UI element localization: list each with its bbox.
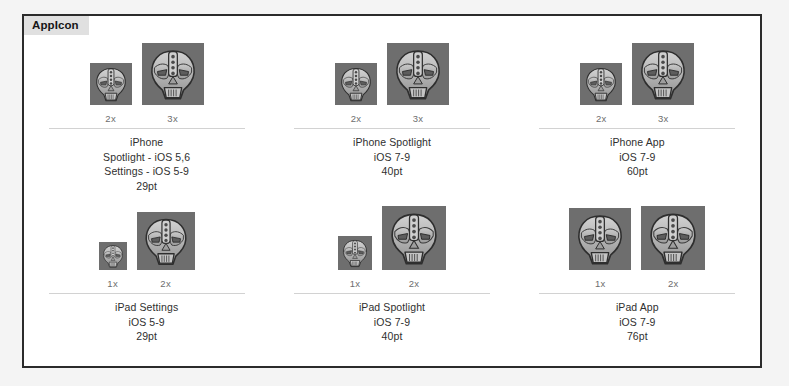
- group-os-line: iOS 7-9: [610, 150, 665, 165]
- icon-row: 1x: [99, 207, 195, 289]
- group-separator: [294, 293, 490, 294]
- icon-scale-label: 2x: [351, 113, 362, 124]
- group-separator: [539, 293, 735, 294]
- icon-group-ipad-app: 1x: [515, 203, 760, 368]
- app-icon-mask-artwork[interactable]: [387, 43, 449, 105]
- icon-scale-label: 2x: [105, 113, 116, 124]
- icon-scale-label: 3x: [658, 113, 669, 124]
- panel-tab-label: AppIcon: [24, 16, 89, 35]
- app-icon-mask-artwork[interactable]: [338, 236, 372, 270]
- icon-slot-3x[interactable]: 3x: [387, 43, 449, 124]
- group-title: iPhone App: [610, 135, 665, 150]
- group-os-line: iOS 7-9: [353, 150, 431, 165]
- icon-slot-1x[interactable]: 1x: [569, 208, 631, 289]
- group-title: iPhone: [103, 135, 190, 150]
- icon-slot-1x[interactable]: 1x: [338, 236, 372, 289]
- group-size-label: 40pt: [353, 164, 431, 179]
- icon-slot-2x[interactable]: 2x: [641, 206, 705, 289]
- icon-scale-label: 3x: [167, 113, 178, 124]
- group-separator: [294, 128, 490, 129]
- icon-row: 1x: [569, 207, 705, 289]
- icon-group-ipad-settings: 1x: [24, 203, 269, 368]
- icon-scale-label: 1x: [595, 278, 606, 289]
- group-os-line: iOS 7-9: [616, 315, 659, 330]
- icon-scale-label: 2x: [160, 278, 171, 289]
- group-caption: iPad SettingsiOS 5-929pt: [115, 300, 178, 344]
- icon-group-iphone-spotlight-settings: 2x: [24, 38, 269, 203]
- group-caption: iPhoneSpotlight - iOS 5,6Settings - iOS …: [103, 135, 190, 193]
- icon-slot-2x[interactable]: 2x: [137, 212, 195, 289]
- icon-group-iphone-app: 2x: [515, 38, 760, 203]
- group-separator: [539, 128, 735, 129]
- group-os-line: iOS 5-9: [115, 315, 178, 330]
- app-icon-mask-artwork[interactable]: [335, 63, 377, 105]
- group-size-label: 60pt: [610, 164, 665, 179]
- icon-scale-label: 1x: [350, 278, 361, 289]
- group-caption: iPhone AppiOS 7-960pt: [610, 135, 665, 179]
- group-size-label: 29pt: [115, 329, 178, 344]
- icon-scale-label: 2x: [409, 278, 420, 289]
- app-icon-mask-artwork[interactable]: [382, 206, 446, 270]
- icon-slot-2x[interactable]: 2x: [580, 63, 622, 124]
- group-size-label: 40pt: [359, 329, 425, 344]
- group-caption: iPhone SpotlightiOS 7-940pt: [353, 135, 431, 179]
- app-icon-set-page: AppIcon: [0, 0, 789, 386]
- group-caption: iPad AppiOS 7-976pt: [616, 300, 659, 344]
- appicon-panel: AppIcon: [22, 14, 762, 368]
- icon-slot-2x[interactable]: 2x: [335, 63, 377, 124]
- icon-slot-2x[interactable]: 2x: [382, 206, 446, 289]
- icon-slot-1x[interactable]: 1x: [99, 242, 127, 289]
- icon-slot-3x[interactable]: 3x: [142, 43, 204, 124]
- app-icon-mask-artwork[interactable]: [90, 63, 132, 105]
- icon-row: 2x: [335, 42, 449, 124]
- app-icon-mask-artwork[interactable]: [137, 212, 195, 270]
- app-icon-mask-artwork[interactable]: [142, 43, 204, 105]
- app-icon-mask-artwork[interactable]: [99, 242, 127, 270]
- group-title: iPad Settings: [115, 300, 178, 315]
- app-icon-mask-artwork[interactable]: [641, 206, 705, 270]
- group-size-label: 76pt: [616, 329, 659, 344]
- icon-scale-label: 2x: [668, 278, 679, 289]
- icon-row: 2x: [90, 42, 204, 124]
- icon-slot-3x[interactable]: 3x: [632, 43, 694, 124]
- group-separator: [49, 293, 245, 294]
- appicon-groups-grid: 2x: [24, 38, 760, 368]
- group-separator: [49, 128, 245, 129]
- icon-group-iphone-spotlight: 2x: [269, 38, 514, 203]
- group-caption: iPad SpotlightiOS 7-940pt: [359, 300, 425, 344]
- icon-row: 2x: [580, 42, 694, 124]
- group-size-label: 29pt: [103, 179, 190, 194]
- icon-scale-label: 1x: [107, 278, 118, 289]
- icon-scale-label: 2x: [596, 113, 607, 124]
- app-icon-mask-artwork[interactable]: [632, 43, 694, 105]
- icon-scale-label: 3x: [413, 113, 424, 124]
- group-title: iPad App: [616, 300, 659, 315]
- app-icon-mask-artwork[interactable]: [569, 208, 631, 270]
- icon-group-ipad-spotlight: 1x: [269, 203, 514, 368]
- group-title: iPad Spotlight: [359, 300, 425, 315]
- app-icon-mask-artwork[interactable]: [580, 63, 622, 105]
- group-os-line-2: Settings - iOS 5-9: [103, 164, 190, 179]
- icon-slot-2x[interactable]: 2x: [90, 63, 132, 124]
- group-title: iPhone Spotlight: [353, 135, 431, 150]
- icon-row: 1x: [338, 207, 446, 289]
- group-os-line: Spotlight - iOS 5,6: [103, 150, 190, 165]
- group-os-line: iOS 7-9: [359, 315, 425, 330]
